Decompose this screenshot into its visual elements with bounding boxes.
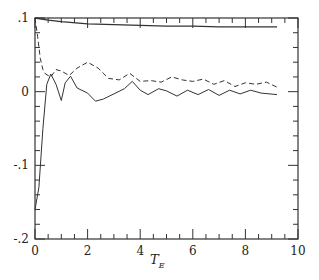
series-line-upper-solid [35, 18, 277, 27]
x-tick-label: 10 [290, 244, 305, 258]
x-axis-label-sub: E [159, 261, 165, 270]
x-tick-label: 2 [84, 244, 92, 258]
plot-frame [35, 18, 298, 239]
x-tick-label: 4 [136, 244, 144, 258]
x-tick-label: 0 [31, 244, 39, 258]
y-tick-label: -.1 [13, 158, 29, 172]
series-line-lower-solid [35, 74, 277, 210]
x-axis-label-main: T [150, 252, 159, 267]
y-tick-label: -.2 [13, 232, 29, 246]
x-tick-label: 8 [242, 244, 250, 258]
y-tick-label: 0 [21, 85, 29, 99]
x-tick-label: 6 [189, 244, 197, 258]
line-chart: 0246810.10-.1-.2 TE [0, 0, 319, 280]
y-tick-label: .1 [18, 11, 29, 25]
plot-area: 0246810.10-.1-.2 [0, 0, 319, 280]
x-axis-label: TE [150, 252, 165, 270]
